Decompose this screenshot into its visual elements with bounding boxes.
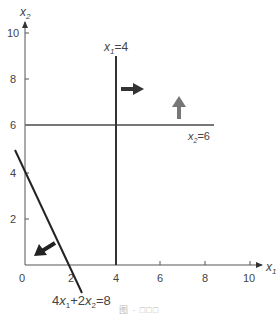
- x-tick-4: 4: [113, 272, 119, 284]
- constraint-diagram: 2 4 6 8 10 x2 0 2 4 6 8 10 x1 x2=6 x1=4: [0, 0, 278, 320]
- x-axis: 0 2 4 6 8 10 x1: [19, 260, 277, 284]
- y-tick-4: 4: [10, 167, 16, 179]
- y-tick-8: 8: [10, 73, 16, 85]
- x-tick-0: 0: [19, 272, 25, 284]
- label-x2-eq-6: x2=6: [187, 130, 210, 144]
- y-tick-2: 2: [10, 213, 16, 225]
- arrow-down-left-icon: [34, 243, 55, 256]
- x-tick-8: 8: [202, 272, 208, 284]
- y-axis-label: x2: [19, 5, 31, 21]
- y-tick-6: 6: [10, 119, 16, 131]
- arrow-right-icon: [121, 83, 144, 95]
- y-tick-10: 10: [7, 27, 19, 39]
- x-axis-label: x1: [265, 260, 276, 276]
- x-tick-10: 10: [243, 272, 255, 284]
- label-x1-eq-4: x1=4: [103, 40, 128, 56]
- arrow-up-icon: [172, 96, 186, 119]
- x-tick-6: 6: [157, 272, 163, 284]
- figure-caption: 图 · □□□: [0, 303, 278, 316]
- y-axis: 2 4 6 8 10 x2: [7, 5, 31, 265]
